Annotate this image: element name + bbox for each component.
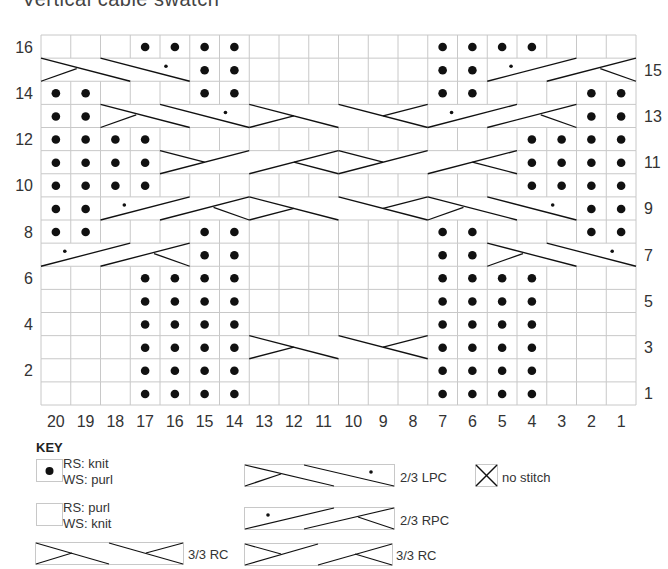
knit-dot-icon	[141, 274, 150, 283]
knitting-chart: 1614121086421513119753120191817161514131…	[0, 0, 668, 430]
key-no-stitch-icon	[475, 464, 499, 488]
knit-dot-icon	[468, 43, 477, 52]
column-labels: 2019181716151413121110987654321	[47, 413, 626, 430]
knit-dot-icon	[52, 228, 61, 237]
knit-dot-icon	[200, 367, 209, 376]
column-label: 4	[527, 413, 536, 430]
knit-dot-icon	[468, 297, 477, 306]
row-label: 11	[644, 154, 661, 171]
knit-dot-icon	[171, 274, 180, 283]
key-title: KEY	[36, 440, 63, 455]
knit-dot-icon	[528, 43, 537, 52]
row-label: 16	[15, 39, 33, 56]
knit-dot-icon	[141, 390, 150, 399]
knit-dot-icon	[111, 182, 120, 191]
knit-dot-icon	[141, 158, 150, 167]
knit-dot-icon	[230, 274, 239, 283]
knit-dot-icon	[200, 320, 209, 329]
key-purl-label: RS: purl WS: knit	[63, 500, 111, 532]
knit-dot-icon	[230, 367, 239, 376]
knit-dot-icon	[141, 182, 150, 191]
knit-dot-icon	[200, 274, 209, 283]
key-3-3-rc-right-label: 3/3 RC	[396, 548, 436, 564]
knit-dot-icon	[438, 251, 447, 260]
key-purl-ws: WS: knit	[63, 516, 111, 532]
knit-dot-icon	[141, 43, 150, 52]
column-label: 5	[498, 413, 507, 430]
knit-dot-icon	[171, 390, 180, 399]
key-3-3-rc-right-icon	[244, 543, 394, 567]
column-label: 11	[315, 413, 332, 430]
knit-dot-icon	[587, 228, 596, 237]
knit-dot-icon	[557, 135, 566, 144]
knit-dot-icon	[468, 89, 477, 98]
row-label: 9	[644, 200, 653, 217]
row-label: 7	[644, 247, 653, 264]
knit-dot-icon	[528, 367, 537, 376]
knit-dot-icon	[200, 89, 209, 98]
knit-dot-icon	[468, 228, 477, 237]
knit-dot-icon	[230, 89, 239, 98]
knit-dot-icon	[52, 135, 61, 144]
column-label: 8	[408, 413, 417, 430]
knit-dot-icon	[468, 66, 477, 75]
knit-dot-icon	[81, 228, 90, 237]
knit-dot-icon	[200, 43, 209, 52]
knit-dot-icon	[141, 297, 150, 306]
knit-dot-icon	[230, 43, 239, 52]
knit-dot-icon	[438, 297, 447, 306]
knit-dot-icon	[528, 297, 537, 306]
knit-dot-icon	[438, 228, 447, 237]
knit-dot-icon	[111, 135, 120, 144]
knit-dot-icon	[498, 367, 507, 376]
knit-dot-icon	[230, 228, 239, 237]
knit-dot-icon	[81, 158, 90, 167]
row-label: 10	[15, 177, 33, 194]
knit-dot-icon	[528, 135, 537, 144]
knit-dot-icon	[557, 182, 566, 191]
knit-dot-icon	[230, 297, 239, 306]
knit-dot-icon	[498, 390, 507, 399]
knit-dot-icon	[617, 205, 626, 214]
knit-dot-icon	[438, 43, 447, 52]
knit-dot-icon	[171, 43, 180, 52]
knit-dot-icon	[528, 182, 537, 191]
knit-dot-icon	[617, 89, 626, 98]
row-labels-right: 15131197531	[644, 62, 662, 403]
key-knit-swatch-icon	[36, 459, 64, 483]
knit-dot-icon	[587, 112, 596, 121]
knit-dot-icon	[52, 205, 61, 214]
column-label: 12	[285, 413, 303, 430]
knit-dot-icon	[81, 112, 90, 121]
knit-dot-icon	[81, 205, 90, 214]
column-label: 1	[617, 413, 626, 430]
knit-dot-icon	[141, 343, 150, 352]
knit-dot-icon	[438, 390, 447, 399]
key-2-3-lpc-icon	[244, 464, 396, 488]
knit-dot-icon	[557, 158, 566, 167]
column-label: 2	[587, 413, 596, 430]
row-label: 3	[644, 339, 653, 356]
column-label: 15	[196, 413, 214, 430]
row-label: 2	[24, 362, 33, 379]
key-knit-ws: WS: purl	[63, 472, 113, 488]
knit-dot-icon	[141, 320, 150, 329]
knit-dot-icon	[617, 228, 626, 237]
knit-dot-icon	[171, 297, 180, 306]
row-label: 8	[24, 224, 33, 241]
row-label: 1	[644, 385, 653, 402]
knit-dot-icon	[81, 182, 90, 191]
knit-dot-icon	[81, 135, 90, 144]
knit-dot-icon	[230, 251, 239, 260]
key-purl-swatch-icon	[36, 503, 64, 527]
knit-dot-icon	[617, 135, 626, 144]
knit-dot-icon	[230, 343, 239, 352]
column-label: 19	[77, 413, 95, 430]
knit-dot-icon	[438, 89, 447, 98]
knit-dot-icon	[200, 343, 209, 352]
knit-dot-icon	[438, 274, 447, 283]
column-label: 17	[136, 413, 154, 430]
knit-dot-icon	[52, 89, 61, 98]
column-label: 10	[344, 413, 362, 430]
knit-dot-icon	[498, 320, 507, 329]
